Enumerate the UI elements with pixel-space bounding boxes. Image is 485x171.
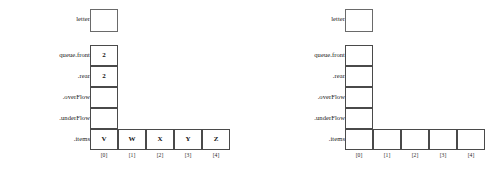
index-label-1: [1]	[373, 152, 401, 159]
field-label-underflow: .underFlow	[0, 114, 90, 122]
items-cell-0[interactable]: V	[90, 129, 118, 150]
items-cell-3[interactable]: Y	[174, 129, 202, 150]
field-cell-underflow[interactable]	[345, 108, 373, 129]
items-cell-2[interactable]	[401, 129, 429, 150]
underflow-label-wrap-left: .underFlow	[0, 114, 90, 122]
letter-label-wrap-right: letter	[225, 15, 345, 23]
field-cell-overflow[interactable]	[345, 87, 373, 108]
index-label-3: [3]	[174, 152, 202, 159]
index-label-0: [0]	[345, 152, 373, 159]
field-label-front: queue.front	[0, 51, 90, 59]
rear-label-wrap-right: .rear	[225, 72, 345, 80]
index-label-0: [0]	[90, 152, 118, 159]
field-label-overflow: .overFlow	[225, 93, 345, 101]
field-label-underflow: .underFlow	[225, 114, 345, 122]
field-label-overflow: .overFlow	[0, 93, 90, 101]
items-label-wrap-right: .items	[225, 135, 345, 143]
letter-box[interactable]	[345, 9, 373, 32]
index-label-2: [2]	[146, 152, 174, 159]
items-label-wrap-left: .items	[0, 135, 90, 143]
letter-label-wrap-left: letter	[0, 15, 90, 23]
field-label-rear: .rear	[0, 72, 90, 80]
field-cell-front[interactable]: 2	[90, 45, 118, 66]
field-cell-rear[interactable]	[345, 66, 373, 87]
field-label-items: .items	[0, 135, 90, 143]
front-label-wrap-left: queue.front	[0, 51, 90, 59]
index-label-4: [4]	[457, 152, 485, 159]
queue-diagram-right: letter queue.front .rear .overFlow .unde…	[237, 0, 474, 171]
items-cell-1[interactable]: W	[118, 129, 146, 150]
items-cell-2[interactable]: X	[146, 129, 174, 150]
items-cell-3[interactable]	[429, 129, 457, 150]
queue-diagram-left: letter queue.front .rear .overFlow .unde…	[0, 0, 237, 171]
items-cell-1[interactable]	[373, 129, 401, 150]
rear-label-wrap-left: .rear	[0, 72, 90, 80]
letter-label: letter	[225, 15, 345, 23]
items-cell-4[interactable]	[457, 129, 485, 150]
underflow-label-wrap-right: .underFlow	[225, 114, 345, 122]
overflow-label-wrap-right: .overFlow	[225, 93, 345, 101]
overflow-label-wrap-left: .overFlow	[0, 93, 90, 101]
index-label-1: [1]	[118, 152, 146, 159]
field-cell-underflow[interactable]	[90, 108, 118, 129]
index-label-2: [2]	[401, 152, 429, 159]
field-cell-front[interactable]	[345, 45, 373, 66]
field-cell-overflow[interactable]	[90, 87, 118, 108]
index-label-3: [3]	[429, 152, 457, 159]
letter-label: letter	[0, 15, 90, 23]
field-label-front: queue.front	[225, 51, 345, 59]
items-cell-0[interactable]	[345, 129, 373, 150]
field-label-items: .items	[225, 135, 345, 143]
front-label-wrap-right: queue.front	[225, 51, 345, 59]
field-cell-rear[interactable]: 2	[90, 66, 118, 87]
letter-box[interactable]	[90, 9, 118, 32]
index-label-4: [4]	[202, 152, 230, 159]
field-label-rear: .rear	[225, 72, 345, 80]
